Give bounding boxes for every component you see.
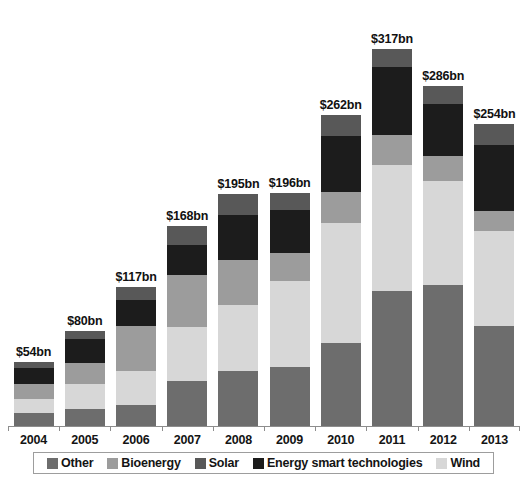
legend-item-other[interactable]: Other bbox=[47, 456, 93, 470]
legend-swatch-icon bbox=[253, 458, 264, 469]
bar-segment-bioenergy[interactable] bbox=[65, 363, 105, 384]
x-axis-tick-labels: 2004200520062007200820092010201120122013 bbox=[8, 433, 520, 453]
legend-swatch-icon bbox=[436, 458, 447, 469]
bar-segment-bioenergy[interactable] bbox=[372, 135, 412, 165]
bar-segment-solar[interactable] bbox=[270, 193, 310, 210]
bar-segment-energy-smart-technologies[interactable] bbox=[14, 368, 54, 385]
axis-tick-2013 bbox=[469, 426, 470, 431]
legend-item-energy-smart-technologies[interactable]: Energy smart technologies bbox=[253, 456, 422, 470]
axis-tick-2005 bbox=[59, 426, 60, 431]
legend-swatch-icon bbox=[195, 458, 206, 469]
bar-segment-energy-smart-technologies[interactable] bbox=[167, 245, 207, 275]
legend-label: Wind bbox=[450, 456, 480, 470]
bar-segment-other[interactable] bbox=[321, 343, 361, 426]
bar-segment-bioenergy[interactable] bbox=[474, 211, 514, 231]
bar-total-label-2010: $262bn bbox=[320, 98, 362, 112]
bar-segment-energy-smart-technologies[interactable] bbox=[218, 215, 258, 260]
bar-segment-bioenergy[interactable] bbox=[270, 253, 310, 282]
axis-tick-2006 bbox=[110, 426, 111, 431]
bar-segment-wind[interactable] bbox=[270, 281, 310, 367]
bar-segment-energy-smart-technologies[interactable] bbox=[372, 67, 412, 135]
chart-legend: OtherBioenergySolarEnergy smart technolo… bbox=[33, 452, 494, 474]
bar-segment-bioenergy[interactable] bbox=[423, 156, 463, 181]
bar-2010[interactable] bbox=[321, 115, 361, 426]
bar-segment-solar[interactable] bbox=[116, 287, 156, 300]
bar-2004[interactable] bbox=[14, 362, 54, 426]
bar-segment-bioenergy[interactable] bbox=[116, 326, 156, 371]
bar-total-label-2004: $54bn bbox=[16, 345, 51, 359]
legend-label: Solar bbox=[209, 456, 239, 470]
bar-2007[interactable] bbox=[167, 226, 207, 426]
legend-label: Energy smart technologies bbox=[267, 456, 422, 470]
legend-swatch-icon bbox=[47, 458, 58, 469]
bar-segment-wind[interactable] bbox=[372, 165, 412, 291]
bar-segment-solar[interactable] bbox=[167, 226, 207, 245]
bar-segment-other[interactable] bbox=[116, 405, 156, 426]
x-tick-label-2013: 2013 bbox=[464, 433, 524, 447]
axis-tick-2011 bbox=[366, 426, 367, 431]
bar-segment-solar[interactable] bbox=[65, 331, 105, 339]
bar-total-label-2013: $254bn bbox=[473, 107, 515, 121]
axis-tick-end bbox=[519, 426, 520, 431]
bar-segment-energy-smart-technologies[interactable] bbox=[321, 136, 361, 192]
bar-segment-wind[interactable] bbox=[167, 327, 207, 380]
bar-segment-wind[interactable] bbox=[423, 181, 463, 284]
bar-segment-bioenergy[interactable] bbox=[167, 275, 207, 327]
bar-2012[interactable] bbox=[423, 86, 463, 426]
axis-tick-2012 bbox=[418, 426, 419, 431]
bar-segment-solar[interactable] bbox=[218, 194, 258, 214]
bar-segment-solar[interactable] bbox=[372, 49, 412, 67]
bar-2009[interactable] bbox=[270, 193, 310, 426]
bar-segment-bioenergy[interactable] bbox=[14, 384, 54, 398]
bar-segment-energy-smart-technologies[interactable] bbox=[65, 339, 105, 363]
bar-2011[interactable] bbox=[372, 49, 412, 426]
bar-segment-other[interactable] bbox=[167, 381, 207, 426]
bar-segment-wind[interactable] bbox=[65, 384, 105, 409]
bar-segment-wind[interactable] bbox=[116, 371, 156, 404]
bar-2013[interactable] bbox=[474, 124, 514, 426]
bar-total-label-2007: $168bn bbox=[166, 209, 208, 223]
bar-segment-other[interactable] bbox=[474, 326, 514, 426]
bar-segment-other[interactable] bbox=[372, 291, 412, 426]
bar-segment-other[interactable] bbox=[218, 371, 258, 426]
plot-area: $54bn$80bn$117bn$168bn$195bn$196bn$262bn… bbox=[8, 4, 520, 426]
axis-tick-2004 bbox=[8, 426, 9, 431]
bar-segment-other[interactable] bbox=[14, 413, 54, 426]
axis-tick-2009 bbox=[264, 426, 265, 431]
bar-2006[interactable] bbox=[116, 287, 156, 426]
bar-total-label-2008: $195bn bbox=[217, 177, 259, 191]
stacked-bar-chart: $54bn$80bn$117bn$168bn$195bn$196bn$262bn… bbox=[0, 0, 528, 482]
legend-item-solar[interactable]: Solar bbox=[195, 456, 239, 470]
bar-segment-wind[interactable] bbox=[321, 223, 361, 343]
bar-segment-solar[interactable] bbox=[474, 124, 514, 144]
legend-label: Bioenergy bbox=[121, 456, 180, 470]
bar-segment-other[interactable] bbox=[423, 285, 463, 426]
axis-tick-2007 bbox=[162, 426, 163, 431]
bar-segment-solar[interactable] bbox=[321, 115, 361, 136]
bar-total-label-2005: $80bn bbox=[67, 314, 102, 328]
bar-segment-bioenergy[interactable] bbox=[321, 192, 361, 223]
bar-total-label-2011: $317bn bbox=[371, 32, 413, 46]
axis-tick-2008 bbox=[213, 426, 214, 431]
bar-segment-energy-smart-technologies[interactable] bbox=[116, 300, 156, 326]
bar-2008[interactable] bbox=[218, 194, 258, 426]
bar-2005[interactable] bbox=[65, 331, 105, 426]
legend-label: Other bbox=[61, 456, 93, 470]
bar-total-label-2006: $117bn bbox=[115, 270, 156, 284]
bar-segment-other[interactable] bbox=[65, 409, 105, 426]
legend-swatch-icon bbox=[107, 458, 118, 469]
bar-segment-other[interactable] bbox=[270, 367, 310, 426]
bar-segment-wind[interactable] bbox=[218, 305, 258, 372]
bar-segment-wind[interactable] bbox=[14, 399, 54, 413]
legend-item-wind[interactable]: Wind bbox=[436, 456, 480, 470]
axis-tick-2010 bbox=[315, 426, 316, 431]
bar-segment-wind[interactable] bbox=[474, 231, 514, 326]
bar-segment-energy-smart-technologies[interactable] bbox=[270, 210, 310, 253]
legend-item-bioenergy[interactable]: Bioenergy bbox=[107, 456, 180, 470]
bar-total-label-2009: $196bn bbox=[269, 176, 311, 190]
bar-segment-energy-smart-technologies[interactable] bbox=[474, 145, 514, 212]
bar-segment-solar[interactable] bbox=[423, 86, 463, 104]
bar-segment-energy-smart-technologies[interactable] bbox=[423, 104, 463, 156]
bar-segment-bioenergy[interactable] bbox=[218, 260, 258, 305]
bar-total-label-2012: $286bn bbox=[422, 69, 464, 83]
